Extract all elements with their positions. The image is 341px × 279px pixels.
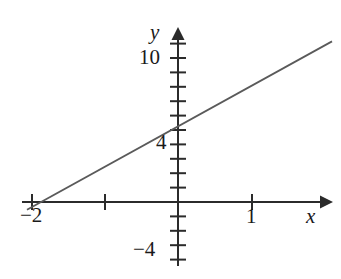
x-tick-label-minus-2: −2 [20,205,42,226]
x-axis-arrowhead [320,196,333,209]
y-tick-label-minus-4: −4 [133,239,155,260]
line-graph-figure: 10 4 −4 −2 1 y x [0,0,341,279]
y-tick-label-10: 10 [139,47,160,68]
x-axis-label: x [306,206,315,227]
y-tick-label-4: 4 [156,132,167,153]
data-line [27,41,332,209]
y-axis-label: y [150,22,159,43]
x-tick-label-1: 1 [246,206,257,227]
plot-area [0,0,341,279]
y-axis-arrowhead [172,27,185,40]
